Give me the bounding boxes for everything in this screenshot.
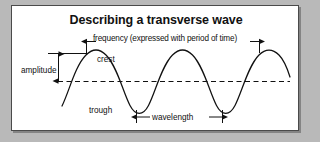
- page-title: Describing a transverse wave: [12, 14, 300, 27]
- amplitude-annotation-label: amplitude: [21, 67, 57, 75]
- diagram-panel: Describing a transverse wave frequency (…: [11, 5, 299, 131]
- figure-root: Describing a transverse wave frequency (…: [0, 0, 320, 142]
- crest-annotation-label: crest: [97, 56, 115, 64]
- wavelength-annotation-label: wavelength: [152, 114, 193, 122]
- trough-annotation-label: trough: [89, 107, 112, 115]
- frequency-annotation-label: frequency (expressed with period of time…: [93, 35, 237, 43]
